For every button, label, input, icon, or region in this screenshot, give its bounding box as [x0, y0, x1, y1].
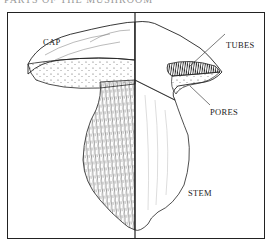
stem-exterior	[83, 80, 135, 230]
pores-label: PORES	[210, 107, 238, 117]
stem-label: STEM	[188, 188, 212, 198]
mushroom-illustration	[0, 0, 271, 243]
stem-cross-section	[135, 80, 189, 230]
pores-leader	[190, 86, 210, 105]
cap-label: CAP	[43, 37, 60, 47]
pores-layer	[172, 72, 221, 94]
tubes-label: TUBES	[226, 40, 254, 50]
cap-pore-surface	[28, 58, 135, 88]
